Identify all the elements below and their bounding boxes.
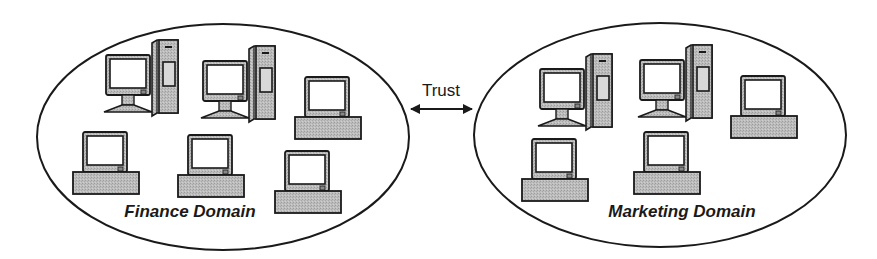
tower-computer-icon bbox=[638, 45, 712, 121]
tower-computer-icon bbox=[538, 54, 612, 130]
finance-domain-label: Finance Domain bbox=[110, 202, 270, 222]
desktop-computer-icon bbox=[522, 139, 588, 201]
tower-computer-icon bbox=[201, 46, 275, 122]
desktop-computer-icon bbox=[275, 151, 341, 213]
desktop-computer-icon bbox=[295, 77, 361, 139]
desktop-computer-icon bbox=[731, 76, 797, 138]
desktop-computer-icon bbox=[73, 132, 139, 194]
tower-computer-icon bbox=[104, 40, 178, 116]
desktop-computer-icon bbox=[634, 132, 700, 194]
trust-label: Trust bbox=[412, 81, 470, 101]
marketing-domain-label: Marketing Domain bbox=[590, 202, 774, 222]
desktop-computer-icon bbox=[178, 135, 244, 197]
